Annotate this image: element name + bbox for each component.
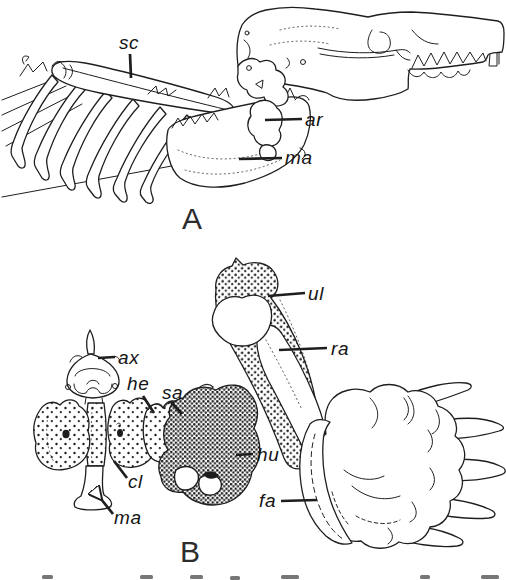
label-hu-text: hu bbox=[257, 444, 279, 465]
label-sc-leader-line bbox=[130, 54, 131, 78]
panel-b: ul ra ax he sa cl ma hu fa B bbox=[34, 258, 505, 568]
label-ax-leader-line bbox=[98, 357, 115, 358]
elbow-articulation bbox=[212, 295, 271, 346]
label-ma-b-text: ma bbox=[114, 507, 142, 528]
label-sa-text: sa bbox=[162, 382, 183, 403]
clavicle-left bbox=[34, 400, 90, 470]
label-fa-text: fa bbox=[259, 490, 276, 511]
panel-b-letter: B bbox=[180, 535, 200, 568]
anatomical-figure: sc ar ma A bbox=[0, 0, 506, 580]
label-ul-text: ul bbox=[308, 283, 324, 304]
label-sc-text: sc bbox=[119, 32, 139, 53]
humerus bbox=[159, 385, 260, 505]
label-ar-text: ar bbox=[305, 109, 323, 130]
incisors bbox=[489, 53, 499, 66]
axis-vertebra bbox=[66, 330, 121, 404]
panel-a: sc ar ma A bbox=[2, 8, 504, 235]
clavicle-complex bbox=[34, 398, 157, 510]
label-ra-text: ra bbox=[331, 338, 349, 359]
label-ax-text: ax bbox=[118, 347, 140, 368]
label-he-text: he bbox=[127, 373, 149, 394]
panel-a-letter: A bbox=[182, 202, 202, 235]
label-ma-text: ma bbox=[285, 147, 313, 168]
molar-row bbox=[408, 70, 470, 78]
axis-spine bbox=[87, 330, 95, 354]
label-fa-leader-line bbox=[281, 500, 317, 501]
label-cl-text: cl bbox=[128, 471, 143, 492]
label-ma-leader-line bbox=[239, 158, 282, 159]
label-ar-leader-line bbox=[265, 119, 302, 120]
cropped-caption-fragments bbox=[42, 575, 499, 580]
figure-page: sc ar ma A bbox=[0, 0, 506, 580]
mandible-outline bbox=[167, 97, 311, 187]
label-hu-leader-line bbox=[236, 454, 253, 455]
